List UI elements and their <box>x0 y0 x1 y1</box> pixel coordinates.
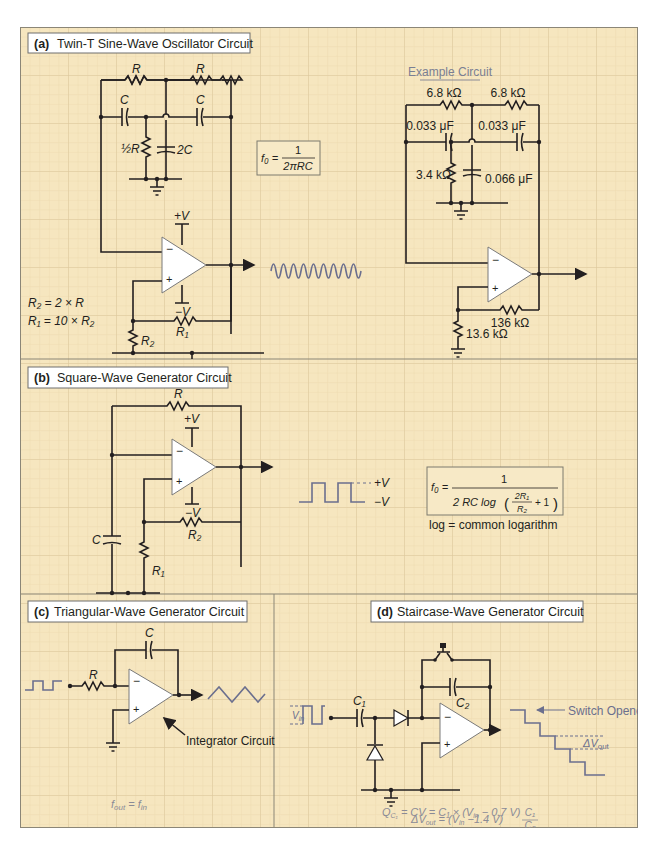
svg-text:Staircase-Wave Generator Circu: Staircase-Wave Generator Circuit <box>397 605 584 619</box>
svg-text:−: − <box>176 444 183 458</box>
svg-text:Triangular-Wave Generator Circ: Triangular-Wave Generator Circuit <box>54 605 245 619</box>
svg-text:3.4 kΩ: 3.4 kΩ <box>416 168 451 182</box>
formula-f0-twin-t: f₀ = 1 2πRC <box>257 141 320 175</box>
switch-opened-callout: Switch Opened <box>568 704 638 718</box>
svg-text:+: + <box>176 475 182 487</box>
svg-text:2R₁: 2R₁ <box>514 491 530 501</box>
svg-text:R: R <box>174 387 183 401</box>
svg-text:(c): (c) <box>34 605 49 619</box>
svg-text:Twin-T Sine-Wave Oscillator Ci: Twin-T Sine-Wave Oscillator Circuit <box>57 37 253 51</box>
svg-text:2 RC log: 2 RC log <box>452 496 497 508</box>
svg-text:R₁: R₁ <box>152 564 165 578</box>
svg-text:−: − <box>444 710 451 724</box>
svg-text:(a): (a) <box>34 37 49 51</box>
svg-text:R₂: R₂ <box>517 504 527 514</box>
svg-text:R: R <box>89 668 98 682</box>
example-circuit-title: Example Circuit <box>408 65 493 79</box>
svg-text:0.066 μF: 0.066 μF <box>485 172 533 186</box>
svg-text:−: − <box>492 253 499 267</box>
svg-text:R₂: R₂ <box>141 334 155 348</box>
svg-text:C: C <box>145 626 154 640</box>
svg-text:ΔVout = (Vin −1.4 V): ΔVout = (Vin −1.4 V) <box>410 813 504 826</box>
svg-text:+: + <box>444 738 450 750</box>
section-d-title: (d) Staircase-Wave Generator Circuit <box>371 601 584 622</box>
svg-text:6.8 kΩ: 6.8 kΩ <box>427 86 462 100</box>
svg-text:C: C <box>120 93 129 107</box>
svg-text:+ 1: + 1 <box>535 497 550 508</box>
svg-text:R: R <box>132 62 141 76</box>
svg-text:−: − <box>166 242 173 256</box>
svg-text:0.033 μF: 0.033 μF <box>478 119 526 133</box>
svg-text:2C: 2C <box>176 143 193 157</box>
svg-text:(d): (d) <box>377 605 393 619</box>
svg-text:+: + <box>133 703 139 715</box>
svg-text:C₁: C₁ <box>525 807 535 818</box>
push-switch-icon <box>440 643 446 648</box>
section-a-title: (a) Twin-T Sine-Wave Oscillator Circuit <box>28 33 253 53</box>
svg-text:C₂: C₂ <box>456 696 470 710</box>
svg-text:6.8 kΩ: 6.8 kΩ <box>491 86 526 100</box>
circuit-figure: (a) Twin-T Sine-Wave Oscillator Circuit … <box>20 27 638 828</box>
svg-text:−V: −V <box>374 495 390 509</box>
formula-f0-square: f₀ = 1 2 RC log ( 2R₁ R₂ + 1 ) <box>427 467 563 515</box>
svg-text:(: ( <box>504 495 509 512</box>
svg-text:C: C <box>92 533 101 547</box>
svg-text:R: R <box>196 62 205 76</box>
svg-text:0.033 μF: 0.033 μF <box>406 119 454 133</box>
svg-text:): ) <box>553 495 558 512</box>
svg-text:13.6 kΩ: 13.6 kΩ <box>466 327 508 341</box>
svg-text:+V: +V <box>184 412 200 426</box>
svg-text:C: C <box>196 93 205 107</box>
r2-rule: R₂ = 2 × R <box>28 296 84 310</box>
svg-text:R₁: R₁ <box>176 325 189 339</box>
svg-text:f₀ =: f₀ = <box>431 481 449 493</box>
svg-text:+V: +V <box>374 476 390 490</box>
svg-text:+V: +V <box>174 209 190 223</box>
svg-text:½R: ½R <box>121 142 140 156</box>
svg-text:C₁: C₁ <box>353 694 366 708</box>
section-c-title: (c) Triangular-Wave Generator Circuit <box>28 601 247 622</box>
svg-text:1: 1 <box>501 473 507 485</box>
svg-text:R₂: R₂ <box>188 528 202 542</box>
svg-text:−: − <box>133 674 140 688</box>
integrator-callout: Integrator Circuit <box>186 734 275 748</box>
svg-text:+: + <box>166 273 172 285</box>
svg-text:1: 1 <box>295 144 301 156</box>
svg-text:Square-Wave Generator Circuit: Square-Wave Generator Circuit <box>57 371 232 385</box>
log-note: log = common logarithm <box>429 518 557 532</box>
svg-text:2πRC: 2πRC <box>282 160 312 172</box>
svg-text:+: + <box>492 282 498 294</box>
svg-text:(b): (b) <box>34 371 50 385</box>
section-b-title: (b) Square-Wave Generator Circuit <box>28 367 232 388</box>
r1-rule: R₁ = 10 × R₂ <box>28 314 95 328</box>
svg-text:f₀ =: f₀ = <box>261 152 279 164</box>
svg-text:C₂: C₂ <box>524 820 535 828</box>
